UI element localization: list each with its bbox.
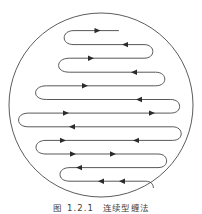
figure-caption: 图 1.2.1连续型缠法: [0, 203, 202, 214]
flow-arrow-icon: [69, 124, 75, 129]
flow-arrow-icon: [133, 138, 139, 143]
flow-arrow-icon: [70, 151, 76, 156]
flow-arrow-icon: [88, 56, 94, 61]
flow-arrow-icon: [95, 28, 101, 33]
caption-number: 图 1.2.1: [53, 203, 94, 213]
flow-arrow-icon: [98, 179, 104, 184]
flow-arrow-icon: [119, 179, 125, 184]
flow-arrow-icon: [76, 165, 82, 170]
flow-arrow-icon: [136, 97, 142, 102]
figure-container: 图 1.2.1连续型缠法: [0, 0, 202, 214]
flow-arrow-group: [60, 28, 155, 184]
flow-arrow-icon: [82, 83, 88, 88]
serpentine-winding-path: [19, 31, 182, 188]
flow-arrow-icon: [63, 110, 69, 115]
boundary-circle-icon: [9, 13, 193, 197]
flow-arrow-icon: [149, 110, 155, 115]
flow-arrow-icon: [131, 70, 137, 75]
winding-diagram: [0, 0, 202, 214]
flow-arrow-icon: [110, 151, 116, 156]
caption-title: 连续型缠法: [103, 203, 149, 213]
flow-arrow-icon: [122, 42, 128, 47]
flow-arrow-icon: [60, 138, 66, 143]
